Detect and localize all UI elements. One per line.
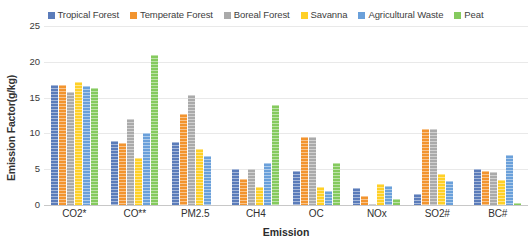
plot-area-wrapper: Emission Factor(g/kg) 0510152025 CO2*CO*… (0, 26, 531, 249)
bar[interactable] (414, 194, 421, 205)
bar[interactable] (293, 171, 300, 205)
chart-legend: Tropical ForestTemperate ForestBoreal Fo… (0, 6, 531, 24)
bar-group (468, 26, 529, 205)
legend-item-label: Tropical Forest (58, 10, 120, 20)
x-axis-tick-label: OC (286, 208, 347, 219)
legend-item-label: Agricultural Waste (368, 10, 443, 20)
bar[interactable] (75, 82, 82, 205)
legend-swatch-icon (224, 12, 231, 19)
legend-swatch-icon (301, 12, 308, 19)
legend-item[interactable]: Savanna (301, 10, 348, 20)
y-axis-tick-label: 10 (20, 129, 40, 139)
y-axis-tick-labels: 0510152025 (20, 26, 40, 209)
bar[interactable] (490, 172, 497, 205)
bar-group (286, 26, 347, 205)
bar[interactable] (59, 85, 66, 205)
bar[interactable] (325, 191, 332, 205)
bar[interactable] (369, 204, 376, 205)
x-axis-tick-label: PM2.5 (165, 208, 226, 219)
bar[interactable] (151, 55, 158, 205)
legend-item-label: Peat (464, 10, 483, 20)
bar[interactable] (514, 203, 521, 205)
bar[interactable] (51, 85, 58, 205)
legend-item[interactable]: Peat (454, 10, 483, 20)
bar[interactable] (264, 163, 271, 205)
bar[interactable] (482, 171, 489, 205)
bar-group (105, 26, 166, 205)
legend-item-label: Savanna (311, 10, 348, 20)
bar[interactable] (272, 105, 279, 205)
x-axis-title: Emission (44, 226, 528, 238)
bar[interactable] (361, 196, 368, 205)
bar-group (44, 26, 105, 205)
legend-swatch-icon (48, 12, 55, 19)
bar[interactable] (506, 155, 513, 205)
bar[interactable] (83, 86, 90, 205)
bar[interactable] (188, 95, 195, 205)
legend-item[interactable]: Boreal Forest (224, 10, 290, 20)
bar[interactable] (317, 187, 324, 205)
bar[interactable] (385, 186, 392, 205)
bar[interactable] (232, 169, 239, 205)
bar[interactable] (393, 199, 400, 205)
bar[interactable] (256, 187, 263, 205)
bar[interactable] (248, 169, 255, 205)
bar[interactable] (474, 169, 481, 205)
bar[interactable] (377, 184, 384, 205)
x-axis-tick-label: BC# (468, 208, 529, 219)
bar[interactable] (430, 129, 437, 205)
legend-swatch-icon (454, 12, 461, 19)
x-axis-tick-label: CO** (105, 208, 166, 219)
y-axis-tick-label: 15 (20, 93, 40, 103)
x-axis-tick-label: CH4 (226, 208, 287, 219)
bar-chart: Tropical ForestTemperate ForestBoreal Fo… (0, 0, 531, 249)
y-axis-tick-label: 20 (20, 57, 40, 67)
legend-item[interactable]: Agricultural Waste (358, 10, 443, 20)
x-axis-tick-label: SO2# (407, 208, 468, 219)
bar[interactable] (301, 137, 308, 205)
y-axis-tick-label: 5 (20, 164, 40, 174)
bar-group (226, 26, 287, 205)
bar-group (347, 26, 408, 205)
bar[interactable] (91, 88, 98, 205)
bar-group (407, 26, 468, 205)
bar[interactable] (127, 119, 134, 205)
bar[interactable] (67, 92, 74, 205)
bar[interactable] (498, 180, 505, 205)
bar[interactable] (143, 133, 150, 205)
bar[interactable] (309, 137, 316, 205)
x-axis-tick-label: NOx (347, 208, 408, 219)
bar[interactable] (422, 129, 429, 205)
legend-item[interactable]: Tropical Forest (48, 10, 120, 20)
bar[interactable] (333, 163, 340, 205)
bar[interactable] (135, 158, 142, 205)
bar[interactable] (180, 114, 187, 205)
bar[interactable] (240, 179, 247, 205)
bar[interactable] (204, 156, 211, 205)
bar[interactable] (438, 174, 445, 206)
bar[interactable] (446, 181, 453, 205)
legend-item-label: Temperate Forest (140, 10, 213, 20)
legend-item-label: Boreal Forest (234, 10, 290, 20)
bar[interactable] (119, 143, 126, 205)
y-axis-title: Emission Factor(g/kg) (5, 53, 17, 203)
x-axis-tick-label: CO2* (44, 208, 105, 219)
legend-swatch-icon (130, 12, 137, 19)
bar[interactable] (111, 141, 118, 205)
y-axis-tick-label: 25 (20, 21, 40, 31)
bar[interactable] (196, 149, 203, 205)
legend-swatch-icon (358, 12, 365, 19)
x-axis-tick-labels: CO2*CO**PM2.5CH4OCNOxSO2#BC# (44, 208, 528, 219)
bar-group (165, 26, 226, 205)
legend-item[interactable]: Temperate Forest (130, 10, 213, 20)
bar[interactable] (353, 188, 360, 205)
bar[interactable] (172, 142, 179, 205)
bars-container (44, 26, 528, 206)
y-axis-tick-label: 0 (20, 200, 40, 210)
